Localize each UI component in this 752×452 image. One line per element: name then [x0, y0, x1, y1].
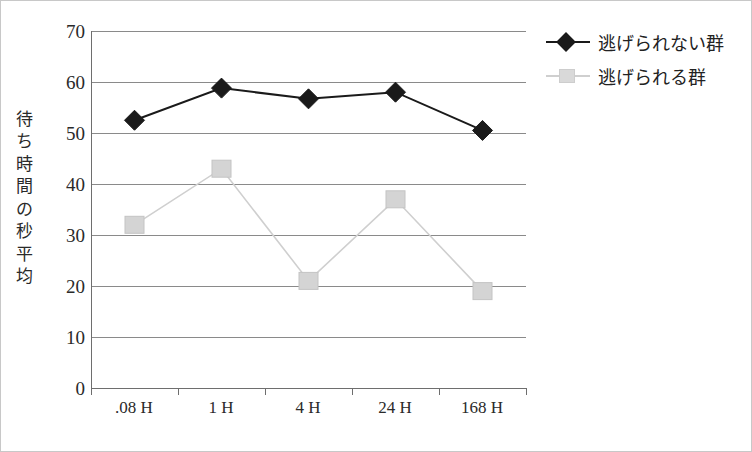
legend: 逃げられない群 逃げられる群: [546, 25, 746, 93]
series-lines: [135, 88, 483, 291]
legend-swatch-square: [546, 65, 590, 87]
diamond-marker-icon: [556, 32, 576, 52]
legend-label: 逃げられない群: [598, 29, 724, 55]
data-point-marker: [473, 283, 492, 300]
data-point-marker: [386, 191, 405, 208]
data-point-marker: [299, 89, 319, 109]
data-point-marker: [125, 110, 145, 130]
square-marker-icon: [559, 69, 575, 83]
data-point-marker: [299, 272, 318, 289]
legend-item-series-1[interactable]: 逃げられない群: [546, 25, 746, 59]
legend-item-series-2[interactable]: 逃げられる群: [546, 59, 746, 93]
chart-page: 待 ち 時 間 の 秒 平 均 70 60 50 40 30 20 10 0 .…: [0, 0, 752, 452]
legend-label: 逃げられる群: [598, 63, 706, 89]
axes: [91, 31, 526, 389]
legend-swatch-diamond: [546, 31, 590, 53]
data-point-marker: [212, 78, 232, 98]
data-point-marker: [473, 120, 493, 140]
data-point-marker: [212, 160, 231, 177]
data-point-marker: [386, 82, 406, 102]
data-point-marker: [125, 216, 144, 233]
